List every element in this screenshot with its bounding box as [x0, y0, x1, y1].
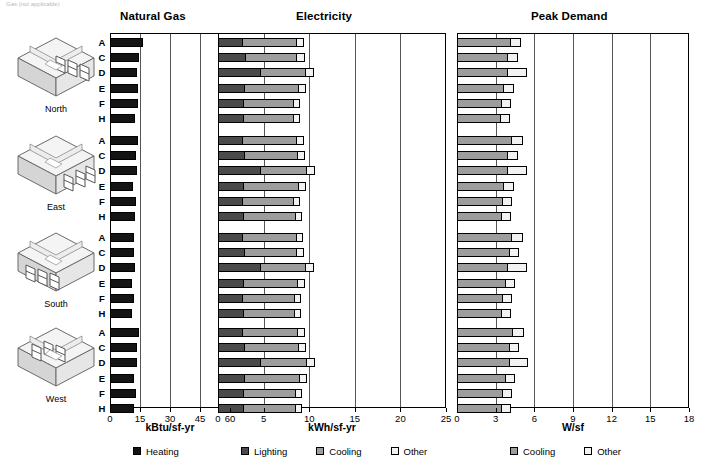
- bar-peak-east-a: [457, 136, 523, 145]
- bar-peak-west-c: [457, 343, 519, 352]
- axis-tick: [573, 408, 574, 412]
- bar-segment-cooling: [244, 248, 297, 257]
- gridline: [355, 34, 356, 407]
- bar-segment-lighting: [218, 38, 242, 47]
- bar-segment-cooling: [457, 38, 510, 47]
- bar-segment-cooling: [244, 84, 299, 93]
- bar-segment-cooling: [260, 358, 306, 367]
- bar-elec-east-e: [218, 182, 306, 191]
- bar-elec-south-e: [218, 279, 305, 288]
- bar-segment-other: [298, 182, 306, 191]
- bar-segment-other: [500, 114, 510, 123]
- bar-segment-cooling: [457, 389, 502, 398]
- row-label-west-c: C: [96, 343, 108, 352]
- bar-segment-other: [298, 84, 306, 93]
- bar-elec-south-c: [218, 248, 304, 257]
- bar-gas-north-e: [110, 84, 138, 93]
- bar-peak-west-d: [457, 358, 528, 367]
- bar-segment-cooling: [242, 136, 297, 145]
- top-caption: Gas (not applicable): [6, 0, 166, 9]
- bar-peak-west-f: [457, 389, 512, 398]
- bar-segment-other: [299, 374, 307, 383]
- bar-segment-other: [294, 309, 301, 318]
- bar-gas-west-f: [110, 389, 136, 398]
- bar-segment-heating: [110, 38, 143, 47]
- orientation-icon-west: West: [12, 320, 100, 404]
- legend-label-other: Other: [597, 446, 621, 457]
- legend-electricity: LightingCoolingOther: [241, 444, 451, 458]
- gridline: [309, 34, 310, 407]
- isometric-room-north: [12, 30, 100, 106]
- bar-segment-cooling: [244, 151, 298, 160]
- bar-elec-east-h: [218, 212, 302, 221]
- bar-segment-cooling: [457, 279, 505, 288]
- bar-gas-north-c: [110, 53, 139, 62]
- bar-segment-lighting: [218, 358, 260, 367]
- bar-segment-other: [505, 279, 515, 288]
- legend-peak-demand: CoolingOther: [510, 444, 645, 458]
- bar-segment-heating: [110, 182, 133, 191]
- bar-segment-cooling: [457, 294, 502, 303]
- bar-segment-cooling: [457, 99, 501, 108]
- legend-swatch-cooling: [316, 447, 324, 455]
- bar-segment-lighting: [218, 166, 260, 175]
- bar-segment-lighting: [218, 182, 243, 191]
- bar-segment-cooling: [457, 136, 511, 145]
- bar-segment-other: [512, 328, 524, 337]
- axis-tick-label: 0: [454, 413, 459, 424]
- bar-gas-south-e: [110, 279, 132, 288]
- bar-elec-east-d: [218, 166, 315, 175]
- row-label-south-d: D: [96, 263, 108, 272]
- row-label-north-d: D: [96, 68, 108, 77]
- bar-segment-other: [296, 38, 303, 47]
- bar-segment-heating: [110, 294, 134, 303]
- bar-segment-heating: [110, 197, 136, 206]
- isometric-room-east: [12, 128, 100, 204]
- bar-elec-north-d: [218, 68, 314, 77]
- bar-gas-east-c: [110, 151, 136, 160]
- row-label-west-d: D: [96, 358, 108, 367]
- row-label-south-e: E: [96, 279, 108, 288]
- gridline: [400, 34, 401, 407]
- bar-segment-other: [293, 197, 300, 206]
- orientation-icon-north: North: [12, 30, 100, 114]
- bar-segment-lighting: [218, 343, 244, 352]
- bar-segment-other: [305, 263, 314, 272]
- bar-segment-cooling: [260, 166, 306, 175]
- bar-segment-heating: [110, 68, 137, 77]
- legend-swatch-heating: [133, 447, 141, 455]
- bar-segment-lighting: [218, 294, 242, 303]
- row-label-east-a: A: [96, 136, 108, 145]
- bar-segment-cooling: [243, 309, 294, 318]
- bar-segment-lighting: [218, 53, 245, 62]
- bar-segment-heating: [110, 166, 137, 175]
- bar-segment-cooling: [260, 68, 305, 77]
- bar-segment-cooling: [242, 233, 296, 242]
- bar-peak-east-d: [457, 166, 527, 175]
- bar-segment-heating: [110, 233, 134, 242]
- bar-segment-cooling: [457, 197, 502, 206]
- orientation-label-east: East: [12, 202, 100, 212]
- gridline: [650, 34, 651, 407]
- axis-peak: 0369121518: [0, 408, 708, 430]
- bar-segment-other: [297, 328, 304, 337]
- bar-segment-lighting: [218, 84, 244, 93]
- axis-tick: [457, 408, 458, 412]
- bar-segment-other: [305, 68, 314, 77]
- axis-tick: [689, 408, 690, 412]
- row-label-north-e: E: [96, 84, 108, 93]
- bar-segment-heating: [110, 279, 132, 288]
- bar-elec-south-h: [218, 309, 301, 318]
- bar-peak-south-d: [457, 263, 527, 272]
- bar-segment-other: [297, 151, 304, 160]
- bar-gas-east-d: [110, 166, 137, 175]
- row-label-north-f: F: [96, 99, 108, 108]
- bar-segment-other: [306, 358, 315, 367]
- axis-tick-label: 3: [493, 413, 498, 424]
- legend-label-other: Other: [404, 446, 428, 457]
- orientation-label-west: West: [12, 394, 100, 404]
- axis-tick: [650, 408, 651, 412]
- bar-segment-other: [502, 294, 512, 303]
- bar-segment-lighting: [218, 197, 242, 206]
- bar-gas-south-c: [110, 248, 134, 257]
